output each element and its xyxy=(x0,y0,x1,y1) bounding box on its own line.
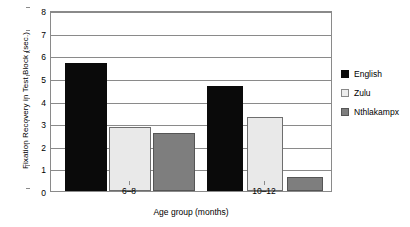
plot-area: 8 7 6 5 4 3 2 1 0 xyxy=(50,11,332,192)
legend-item-zulu: Zulu xyxy=(341,85,410,101)
legend-swatch-english-icon xyxy=(341,70,349,78)
legend-item-english: English xyxy=(341,66,410,82)
y-tick-label-0: 0 xyxy=(30,188,51,198)
x-axis-title: Age group (months) xyxy=(50,207,332,217)
bar-zulu-6-8 xyxy=(109,127,151,191)
y-tick-label-8: 8 xyxy=(30,7,51,17)
bar-nthlakampx-6-8 xyxy=(153,133,195,191)
bar-english-6-8 xyxy=(65,63,107,191)
legend-item-nthlakampx: Nthlakampx xyxy=(341,104,410,120)
y-axis-title: Fixation Recovery in Test Block (sec.) xyxy=(21,6,30,196)
x-tick-mark-10-12 xyxy=(264,181,265,185)
gridline-7 xyxy=(51,35,331,36)
bar-zulu-10-12 xyxy=(247,117,283,191)
legend-label-english: English xyxy=(354,69,382,79)
legend-label-nthlakampx: Nthlakampx xyxy=(354,107,399,117)
x-tick-mark-6-8 xyxy=(129,181,130,185)
bar-chart-figure: Fixation Recovery in Test Block (sec.) 8… xyxy=(0,0,410,227)
legend-label-zulu: Zulu xyxy=(354,88,371,98)
gridline-8 xyxy=(51,12,331,13)
y-tick-label-6: 6 xyxy=(30,52,51,62)
bar-nthlakampx-10-12 xyxy=(287,177,323,191)
legend: English Zulu Nthlakampx xyxy=(341,66,410,123)
bar-english-10-12 xyxy=(207,86,243,191)
gridline-6 xyxy=(51,57,331,58)
y-tick-label-4: 4 xyxy=(30,98,51,108)
x-tick-label-6-8: 6–8 xyxy=(122,186,136,196)
y-tick-label-1: 1 xyxy=(30,165,51,175)
legend-swatch-zulu-icon xyxy=(341,89,349,97)
legend-swatch-nthlakampx-icon xyxy=(341,108,349,116)
y-tick-label-7: 7 xyxy=(30,30,51,40)
y-tick-label-5: 5 xyxy=(30,75,51,85)
x-tick-label-10-12: 10–12 xyxy=(252,186,276,196)
y-tick-label-3: 3 xyxy=(30,120,51,130)
y-tick-label-2: 2 xyxy=(30,143,51,153)
